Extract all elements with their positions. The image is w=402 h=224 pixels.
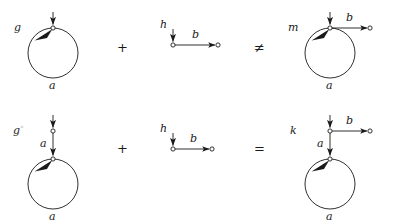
node-bottom-r2-left <box>51 157 55 161</box>
row2-left-diagram <box>28 115 78 209</box>
figure-graphics <box>0 0 402 224</box>
edge-label-b-r1-mid: b <box>192 29 199 40</box>
chain-edge-label-a-r2-right: a <box>317 138 324 149</box>
loop-edge-r1-left <box>28 28 78 78</box>
operator-plus-r1: + <box>117 41 128 54</box>
operator-plus-r2: + <box>117 142 128 155</box>
morphism-label-h-r1: h <box>160 19 167 30</box>
loop-arrowhead-r1-right <box>312 29 330 40</box>
loop-edge-label-a-r2-left: a <box>49 211 56 222</box>
morphism-label-k: k <box>290 125 297 136</box>
node-bottom-r2-right <box>328 157 332 161</box>
node-r1-right <box>328 26 332 30</box>
loop-arrowhead-r1-left <box>35 29 53 40</box>
node-target-b-r2-right <box>368 129 372 133</box>
relation-equal-r2: = <box>254 142 265 155</box>
loop-arrowhead-r2-left <box>35 160 53 171</box>
loop-arrowhead-r2-right <box>312 160 330 171</box>
morphism-label-g-superscript: ◦ <box>20 123 24 131</box>
morphism-label-g: g <box>14 22 21 33</box>
row1-right-diagram <box>305 12 372 78</box>
loop-edge-label-a-r1-left: a <box>49 80 56 91</box>
loop-edge-r2-right <box>305 159 355 209</box>
node-top-r2-left <box>51 129 55 133</box>
loop-edge-label-a-r1-right: a <box>326 80 333 91</box>
chain-edge-label-a-r2-left: a <box>40 138 47 149</box>
loop-edge-label-a-r2-right: a <box>326 211 333 222</box>
node-r1-left <box>51 26 55 30</box>
morphism-label-h-r2: h <box>160 123 167 134</box>
row2-right-diagram <box>305 115 372 209</box>
node-top-r2-right <box>328 129 332 133</box>
figure-canvas: g a + h b ≠ m b a g◦ a a + h b = k b a a <box>0 0 402 224</box>
node-target-b-r1-right <box>368 26 372 30</box>
edge-label-b-r2-mid: b <box>190 133 197 144</box>
edge-label-b-r1-right: b <box>346 12 353 23</box>
node-source-r1-mid <box>171 43 175 47</box>
node-target-r2-mid <box>210 147 214 151</box>
relation-not-equal-r1: ≠ <box>254 41 265 54</box>
node-source-r2-mid <box>171 147 175 151</box>
morphism-label-m: m <box>288 22 298 33</box>
row1-left-diagram <box>28 12 78 78</box>
loop-edge-r2-left <box>28 159 78 209</box>
loop-edge-r1-right <box>305 28 355 78</box>
node-target-r1-mid <box>216 43 220 47</box>
morphism-label-g-base: g <box>13 124 20 137</box>
morphism-label-g-circ: g◦ <box>13 125 24 136</box>
edge-label-b-r2-right: b <box>346 115 353 126</box>
